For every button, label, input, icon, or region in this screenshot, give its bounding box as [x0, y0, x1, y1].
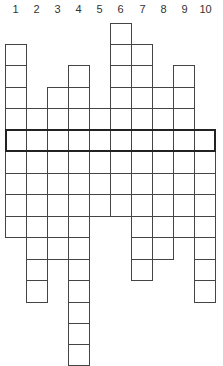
grid-cell-col8-row9[interactable] — [152, 216, 174, 238]
grid-cell-col10-row9[interactable] — [194, 216, 216, 238]
grid-cell-col6-row0[interactable] — [110, 23, 132, 45]
column-number-4: 4 — [68, 3, 89, 15]
grid-cell-col9-row8[interactable] — [173, 194, 195, 217]
grid-cell-col10-row7[interactable] — [194, 173, 216, 195]
grid-cell-col4-row4[interactable] — [68, 108, 90, 131]
grid-cell-col3-row7[interactable] — [47, 173, 69, 195]
grid-cell-col3-row5[interactable] — [47, 130, 69, 152]
grid-cell-col2-row9[interactable] — [26, 216, 48, 238]
grid-cell-col7-row9[interactable] — [131, 216, 153, 238]
grid-cell-col3-row4[interactable] — [47, 108, 69, 131]
grid-cell-col4-row11[interactable] — [68, 259, 90, 281]
grid-cell-col2-row7[interactable] — [26, 173, 48, 195]
column-number-10: 10 — [195, 3, 216, 15]
grid-cell-col10-row11[interactable] — [194, 259, 216, 281]
grid-cell-col8-row10[interactable] — [152, 237, 174, 260]
column-number-8: 8 — [153, 3, 174, 15]
grid-cell-col4-row13[interactable] — [68, 302, 90, 324]
grid-cell-col3-row6[interactable] — [47, 151, 69, 174]
grid-cell-col2-row5[interactable] — [26, 130, 48, 152]
grid-cell-col4-row15[interactable] — [68, 344, 90, 366]
grid-cell-col9-row3[interactable] — [173, 87, 195, 109]
grid-cell-col7-row11[interactable] — [131, 259, 153, 281]
grid-cell-col4-row12[interactable] — [68, 280, 90, 303]
column-number-1: 1 — [5, 3, 26, 15]
grid-cell-col4-row8[interactable] — [68, 194, 90, 217]
grid-cell-col4-row2[interactable] — [68, 65, 90, 88]
grid-cell-col8-row4[interactable] — [152, 108, 174, 131]
grid-cell-col2-row6[interactable] — [26, 151, 48, 174]
grid-cell-col3-row10[interactable] — [47, 237, 69, 260]
grid-cell-col1-row5[interactable] — [5, 130, 27, 152]
grid-cell-col5-row4[interactable] — [89, 108, 111, 131]
grid-cell-col1-row1[interactable] — [5, 44, 27, 66]
grid-cell-col8-row8[interactable] — [152, 194, 174, 217]
grid-cell-col1-row2[interactable] — [5, 65, 27, 88]
grid-cell-col10-row8[interactable] — [194, 194, 216, 217]
grid-cell-col7-row4[interactable] — [131, 108, 153, 131]
grid-cell-col4-row5[interactable] — [68, 130, 90, 152]
grid-cell-col7-row7[interactable] — [131, 173, 153, 195]
grid-cell-col5-row8[interactable] — [89, 194, 111, 217]
grid-cell-col7-row6[interactable] — [131, 151, 153, 174]
grid-cell-col2-row11[interactable] — [26, 259, 48, 281]
grid-cell-col5-row7[interactable] — [89, 173, 111, 195]
grid-cell-col9-row5[interactable] — [173, 130, 195, 152]
grid-cell-col9-row2[interactable] — [173, 65, 195, 88]
grid-cell-col6-row5[interactable] — [110, 130, 132, 152]
grid-cell-col7-row10[interactable] — [131, 237, 153, 260]
grid-cell-col2-row8[interactable] — [26, 194, 48, 217]
grid-cell-col4-row3[interactable] — [68, 87, 90, 109]
grid-cell-col5-row5[interactable] — [89, 130, 111, 152]
grid-cell-col7-row5[interactable] — [131, 130, 153, 152]
column-number-2: 2 — [26, 3, 47, 15]
grid-cell-col3-row8[interactable] — [47, 194, 69, 217]
grid-cell-col5-row6[interactable] — [89, 151, 111, 174]
grid-cell-col9-row9[interactable] — [173, 216, 195, 238]
grid-cell-col7-row2[interactable] — [131, 65, 153, 88]
grid-cell-col10-row5[interactable] — [194, 130, 216, 152]
grid-cell-col3-row3[interactable] — [47, 87, 69, 109]
grid-cell-col1-row8[interactable] — [5, 194, 27, 217]
grid-cell-col4-row9[interactable] — [68, 216, 90, 238]
grid-cell-col6-row2[interactable] — [110, 65, 132, 88]
grid-cell-col6-row7[interactable] — [110, 173, 132, 195]
column-number-6: 6 — [110, 3, 131, 15]
grid-cell-col10-row10[interactable] — [194, 237, 216, 260]
grid-cell-col10-row6[interactable] — [194, 151, 216, 174]
grid-cell-col4-row14[interactable] — [68, 323, 90, 345]
grid-cell-col9-row6[interactable] — [173, 151, 195, 174]
grid-cell-col1-row7[interactable] — [5, 173, 27, 195]
grid-cell-col6-row1[interactable] — [110, 44, 132, 66]
grid-cell-col6-row6[interactable] — [110, 151, 132, 174]
column-number-5: 5 — [89, 3, 110, 15]
grid-cell-col6-row8[interactable] — [110, 194, 132, 217]
grid-cell-col1-row6[interactable] — [5, 151, 27, 174]
grid-cell-col9-row4[interactable] — [173, 108, 195, 131]
grid-cell-col2-row10[interactable] — [26, 237, 48, 260]
column-number-9: 9 — [174, 3, 195, 15]
grid-cell-col1-row9[interactable] — [5, 216, 27, 238]
grid-cell-col2-row4[interactable] — [26, 108, 48, 131]
column-number-3: 3 — [47, 3, 68, 15]
grid-cell-col10-row12[interactable] — [194, 280, 216, 303]
grid-cell-col8-row7[interactable] — [152, 173, 174, 195]
column-number-7: 7 — [132, 3, 153, 15]
grid-cell-col7-row3[interactable] — [131, 87, 153, 109]
grid-cell-col2-row12[interactable] — [26, 280, 48, 303]
grid-cell-col7-row1[interactable] — [131, 44, 153, 66]
grid-cell-col9-row7[interactable] — [173, 173, 195, 195]
grid-cell-col1-row4[interactable] — [5, 108, 27, 131]
grid-cell-col6-row3[interactable] — [110, 87, 132, 109]
grid-cell-col1-row3[interactable] — [5, 87, 27, 109]
grid-cell-col8-row5[interactable] — [152, 130, 174, 152]
grid-cell-col8-row3[interactable] — [152, 87, 174, 109]
grid-cell-col3-row9[interactable] — [47, 216, 69, 238]
grid-cell-col4-row10[interactable] — [68, 237, 90, 260]
grid-cell-col4-row6[interactable] — [68, 151, 90, 174]
grid-cell-col8-row6[interactable] — [152, 151, 174, 174]
grid-cell-col6-row4[interactable] — [110, 108, 132, 131]
grid-cell-col7-row8[interactable] — [131, 194, 153, 217]
grid-cell-col4-row7[interactable] — [68, 173, 90, 195]
